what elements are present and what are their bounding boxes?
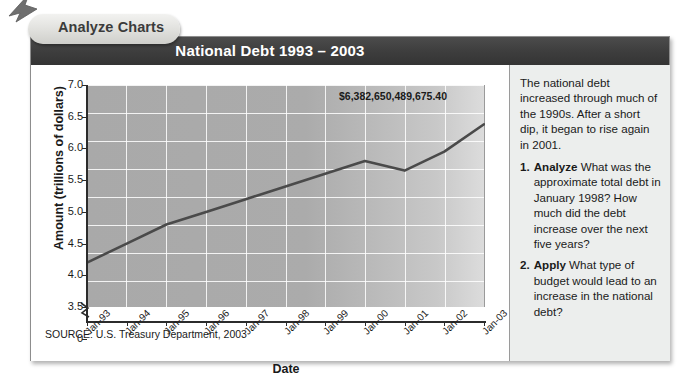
y-axis-tick-mark	[82, 148, 87, 149]
analyze-charts-tab-label: Analyze Charts	[58, 19, 164, 35]
y-axis-tick-label: 5.0	[55, 205, 83, 217]
y-axis-tick-label: 4.5	[55, 237, 83, 249]
y-axis-tick-label: 6.5	[55, 110, 83, 122]
debt-value-annotation: $6,382,650,489,675.40	[339, 90, 447, 102]
question-number: 1.	[520, 159, 530, 251]
y-axis-tick-mark	[82, 180, 87, 181]
arrow-up-left-icon	[6, 0, 42, 28]
y-axis-tick-mark	[82, 244, 87, 245]
y-axis-tick-mark	[82, 307, 87, 308]
y-axis-ticks: 7.06.56.05.55.04.54.03.50	[49, 65, 83, 325]
y-axis-tick-label: 6.0	[55, 141, 83, 153]
plot-background	[87, 85, 485, 307]
questions-panel: The national debt increased through much…	[510, 65, 670, 361]
y-axis-line	[86, 85, 88, 322]
debt-line-series	[87, 85, 485, 307]
y-axis-tick-mark	[82, 212, 87, 213]
analyze-charts-tab[interactable]: Analyze Charts	[28, 14, 180, 44]
y-axis-tick-label: 7.0	[55, 78, 83, 90]
y-axis-tick-mark	[82, 117, 87, 118]
question-item: 2.Apply What type of budget would lead t…	[520, 257, 661, 319]
questions-list: 1.Analyze What was the approximate total…	[520, 159, 661, 319]
panel-intro-text: The national debt increased through much…	[520, 75, 661, 152]
y-axis-tick-label: 4.0	[55, 268, 83, 280]
y-axis-tick-label: 5.5	[55, 173, 83, 185]
y-axis-tick-mark	[82, 275, 87, 276]
question-item: 1.Analyze What was the approximate total…	[520, 159, 661, 251]
chart-source: SOURCE: U.S. Treasury Department, 2003	[45, 328, 247, 340]
question-text: Apply What type of budget would lead to …	[534, 257, 661, 319]
y-axis-tick-mark	[82, 339, 87, 340]
question-verb: Analyze	[534, 160, 578, 173]
question-verb: Apply	[534, 258, 566, 271]
question-text: Analyze What was the approximate total d…	[534, 159, 661, 251]
x-axis-title: Date	[87, 362, 485, 376]
figure-card: National Debt 1993 – 2003 Amount (trilli…	[30, 36, 670, 361]
y-axis-tick-mark	[82, 85, 87, 86]
axis-break-icon	[79, 301, 95, 319]
question-number: 2.	[520, 257, 530, 319]
analyze-charts-figure: Analyze Charts National Debt 1993 – 2003…	[0, 0, 684, 376]
chart-area: Amount (trillions of dollars)	[31, 65, 509, 361]
